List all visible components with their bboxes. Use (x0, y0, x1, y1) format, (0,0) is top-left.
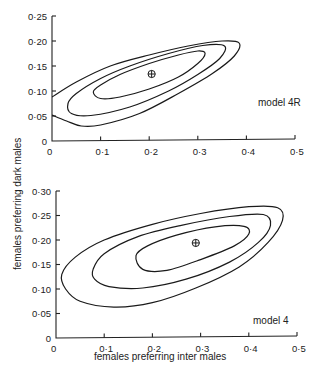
y-tick-label: 0·05 (32, 308, 51, 319)
maximum-marker-icon (192, 239, 199, 246)
contour-figure: 00·10·20·30·40·500·050·100·150·200·25mod… (0, 0, 317, 375)
contour-inner (93, 51, 205, 99)
x-tick-label: 0·5 (292, 343, 306, 354)
panel-top-model-4R: 00·10·20·30·40·500·050·100·150·200·25mod… (28, 11, 304, 158)
y-tick-label: 0·30 (32, 186, 51, 197)
y-tick-label: 0·20 (28, 36, 47, 47)
x-tick-label: 0·4 (241, 146, 255, 157)
y-tick-label: 0·05 (28, 111, 47, 122)
x-tick-label: 0·1 (96, 146, 110, 157)
contour-outer (61, 206, 283, 307)
maximum-marker-icon (148, 70, 155, 77)
x-tick-label: 0·2 (144, 146, 158, 157)
y-tick-label: 0·15 (32, 259, 51, 270)
model-label: model 4 (253, 315, 289, 326)
y-axis-title: females preferring dark males (12, 138, 23, 270)
y-tick-label: 0·15 (28, 61, 47, 72)
panel-bottom-model-4: 00·10·20·30·40·500·050·100·150·200·250·3… (32, 186, 306, 355)
x-tick-label: 0·4 (244, 343, 258, 354)
y-tick-label: 0·20 (32, 235, 51, 246)
contour-group (52, 41, 240, 127)
contour-middle (92, 214, 271, 289)
x-axis-title: females preferring inter males (94, 351, 226, 362)
x-tick-label: 0·3 (193, 146, 207, 157)
x-tick-label: 0·5 (290, 146, 304, 157)
contour-outer (52, 41, 240, 127)
y-tick-label: 0·25 (32, 210, 51, 221)
x-tick-label: 0 (47, 146, 52, 157)
y-tick-label: 0·25 (28, 11, 47, 22)
y-tick-label: 0·10 (28, 86, 47, 97)
y-tick-label: 0·10 (32, 284, 51, 295)
y-tick-label: 0 (46, 333, 51, 344)
y-tick-label: 0 (42, 136, 47, 147)
contour-group (61, 206, 283, 307)
axes (52, 16, 295, 141)
model-label: model 4R (258, 97, 301, 108)
x-tick-label: 0 (51, 343, 56, 354)
